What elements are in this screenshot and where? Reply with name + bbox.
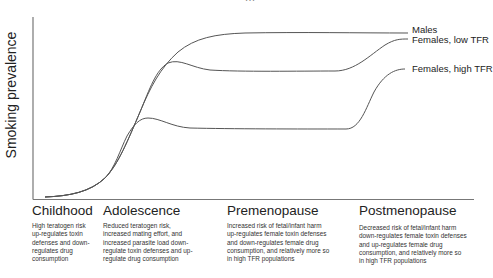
curve-females-high-tfr — [45, 69, 405, 197]
legend-label-females-high-tfr: Females, high TFR — [412, 64, 493, 74]
curve-males — [45, 33, 408, 197]
curve-females-low-tfr — [45, 39, 408, 197]
stage-postmenopause: Postmenopause Decreased risk of fetal/in… — [359, 203, 467, 265]
stage-heading: Childhood — [32, 203, 96, 219]
stage-description: Reduced teratogen risk, increased mating… — [103, 222, 199, 263]
stage-premenopause: Premenopause Increased risk of fetal/inf… — [227, 203, 331, 263]
smoking-prevalence-diagram: … Smoking prevalence Males Females, low … — [0, 0, 493, 278]
clipped-title: … — [150, 0, 350, 3]
stage-description: Decreased risk of fetal/infant harm down… — [359, 224, 467, 265]
stage-heading: Postmenopause — [359, 203, 467, 219]
stage-adolescence: Adolescence Reduced teratogen risk, incr… — [103, 203, 199, 263]
stage-heading: Premenopause — [227, 203, 331, 219]
legend-label-females-low-tfr: Females, low TFR — [412, 35, 489, 45]
stage-description: Increased risk of fetal/infant harm up-r… — [227, 222, 331, 263]
stage-childhood: Childhood High teratogen risk up-regulat… — [32, 203, 96, 263]
stage-heading: Adolescence — [103, 203, 199, 219]
y-axis-label: Smoking prevalence — [3, 0, 19, 190]
stage-description: High teratogen risk up-regulates toxin d… — [32, 222, 96, 263]
